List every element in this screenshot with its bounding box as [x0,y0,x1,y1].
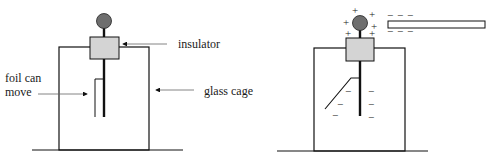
label-insulator: insulator [178,37,220,51]
minus-charge: − [368,84,374,98]
minus-charge: − [368,97,374,111]
label-foil-line1: foil can [5,71,41,85]
plus-charge: + [352,3,358,17]
minus-charge: − [397,8,403,22]
plus-charge: + [369,26,375,40]
sphere-left [97,14,112,29]
minus-charge: − [407,24,413,38]
electroscope-diagram [0,0,491,158]
insulator-left [90,37,119,59]
minus-charge: − [407,8,413,22]
foil-left [95,79,104,117]
left-electroscope [32,14,194,151]
right-electroscope [277,16,485,152]
sphere-right [353,16,368,31]
minus-charge: − [387,24,393,38]
minus-charge: − [397,24,403,38]
minus-charge: − [332,108,338,122]
insulator-right [346,38,374,61]
minus-charge: − [368,110,374,124]
plus-charge: + [345,26,351,40]
minus-charge: − [345,84,351,98]
minus-charge: − [387,8,393,22]
label-foil-line2: move [5,85,32,99]
label-glass-cage: glass cage [204,84,253,98]
